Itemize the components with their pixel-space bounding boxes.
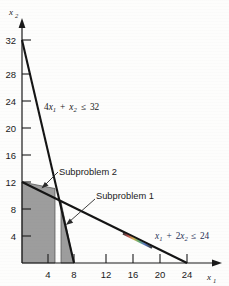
constraint-1-sub2: 2 (73, 106, 77, 113)
x-tick-label-4: 4 (45, 269, 50, 280)
y-tick-label-4: 4 (11, 231, 16, 242)
subproblem-1-label: Subproblem 1 (96, 191, 154, 201)
constraint-2-rhs: 24 (200, 231, 210, 241)
y-axis-label: x (8, 7, 13, 17)
x-axis-label: x (206, 272, 211, 282)
y-tick-label-32: 32 (5, 35, 16, 46)
subproblem-2-label: Subproblem 2 (59, 167, 117, 177)
x-tick-label-20: 20 (155, 269, 166, 280)
shaded-region-subproblem-2 (22, 182, 55, 263)
constraint-1-rhs: 32 (90, 102, 100, 112)
constraint-2-plus: + (166, 231, 171, 241)
x-tick-label-8: 8 (71, 269, 76, 280)
x-tick-label-12: 12 (101, 269, 112, 280)
scan-artifact-highlight (123, 234, 152, 248)
subproblem-1-leader (66, 199, 95, 225)
constraint-2-label: x1+2x2≤24 (154, 231, 210, 242)
y-tick-label-24: 24 (5, 96, 16, 107)
constraint-2-relation: ≤ (191, 231, 196, 241)
chart-figure: x 2 x 1 4 8 12 16 20 24 28 32 4 8 12 16 … (0, 0, 229, 286)
x-axis-arrowhead (212, 260, 222, 267)
x-tick-label-24: 24 (182, 269, 193, 280)
x-axis-label-subscript: 1 (213, 277, 216, 284)
y-axis-label-subscript: 2 (15, 12, 19, 19)
x-tick-label-16: 16 (128, 269, 139, 280)
constraint-2-sub1: 1 (159, 235, 162, 242)
plot-svg: x 2 x 1 4 8 12 16 20 24 28 32 4 8 12 16 … (0, 0, 229, 286)
y-tick-label-16: 16 (5, 150, 16, 161)
constraint-2-sub2: 2 (184, 235, 188, 242)
y-tick-label-20: 20 (5, 123, 16, 134)
constraint-1-plus: + (60, 102, 65, 112)
y-axis-arrowhead (19, 18, 26, 28)
constraint-1-sub1: 1 (53, 106, 56, 113)
constraint-1-relation: ≤ (81, 102, 86, 112)
constraint-1-label: 4x1+x2≤32 (44, 102, 100, 113)
y-tick-label-12: 12 (5, 177, 16, 188)
y-tick-label-8: 8 (11, 204, 16, 215)
y-tick-label-28: 28 (5, 69, 16, 80)
